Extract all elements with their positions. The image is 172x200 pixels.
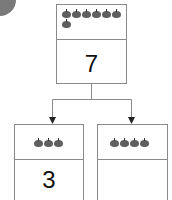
apple-icon [110,138,119,147]
left-apples-panel [15,125,83,160]
apple-icon [140,138,149,147]
left-apples [34,138,74,147]
apple-icon [34,138,43,147]
arrow-down-icon [128,117,135,124]
part-box-left: 3 [14,124,84,200]
right-part-answer-blank[interactable] [98,166,167,196]
right-apples [110,138,158,147]
arrow-down-icon [49,117,56,124]
apple-icon [130,138,139,147]
apple-icon [120,138,129,147]
apple-icon [44,138,53,147]
apple-icon [54,138,63,147]
part-box-right [97,124,168,200]
left-part-number: 3 [15,166,83,194]
right-apples-panel [98,125,167,160]
